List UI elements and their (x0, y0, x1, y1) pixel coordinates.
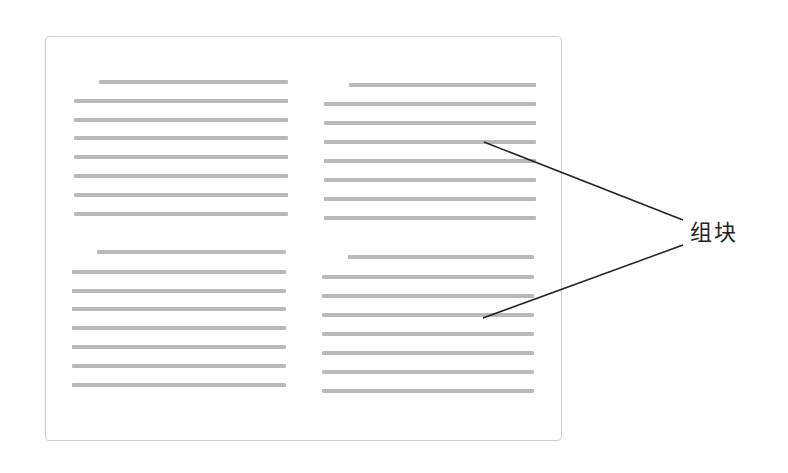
block-bottom-left-text-line (72, 345, 286, 349)
block-top-left-first-line (99, 80, 288, 84)
block-bottom-left-text-line (72, 383, 286, 387)
block-top-left-text-line (74, 99, 288, 103)
block-top-left-text-line (74, 136, 288, 140)
block-bottom-left-text-line (72, 289, 286, 293)
page-frame (45, 36, 562, 441)
block-bottom-right-text-line (322, 275, 534, 279)
block-bottom-right-text-line (322, 351, 534, 355)
block-top-right-text-line (324, 216, 536, 220)
block-top-left-text-line (74, 193, 288, 197)
block-bottom-right-text-line (322, 313, 534, 317)
block-bottom-left-text-line (72, 270, 286, 274)
block-bottom-right-text-line (322, 294, 534, 298)
block-top-left-text-line (74, 118, 288, 122)
block-top-right-text-line (324, 197, 536, 201)
block-bottom-left-text-line (72, 364, 286, 368)
block-bottom-right-text-line (322, 370, 534, 374)
block-top-left-text-line (74, 212, 288, 216)
block-bottom-left-text-line (72, 307, 286, 311)
block-bottom-right-text-line (322, 389, 534, 393)
block-top-right-text-line (324, 140, 536, 144)
block-bottom-right-first-line (348, 255, 534, 259)
block-bottom-left-first-line (97, 250, 286, 254)
block-bottom-right-text-line (322, 332, 534, 336)
callout-label-chunk: 组块 (690, 219, 738, 247)
block-top-left-text-line (74, 174, 288, 178)
block-top-left-text-line (74, 155, 288, 159)
block-top-right-text-line (324, 178, 536, 182)
block-top-right-text-line (324, 102, 536, 106)
block-top-right-text-line (324, 121, 536, 125)
block-top-right-text-line (324, 159, 536, 163)
block-bottom-left-text-line (72, 326, 286, 330)
block-top-right-first-line (349, 83, 536, 87)
